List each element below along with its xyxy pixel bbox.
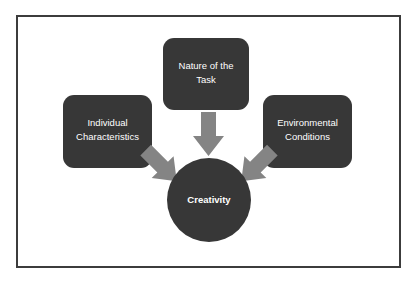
node-label-line-1: Nature of the [179, 60, 234, 71]
diagram-root: Nature of the Task Individual Characteri… [0, 0, 417, 284]
node-individual-characteristics[interactable]: Individual Characteristics [63, 95, 152, 168]
hub-label: Creativity [187, 194, 231, 205]
node-label-line-2: Characteristics [76, 131, 139, 142]
node-label-line-1: Environmental [277, 117, 338, 128]
node-nature-of-the-task[interactable]: Nature of the Task [163, 38, 249, 110]
diagram-canvas: Nature of the Task Individual Characteri… [0, 0, 417, 284]
node-label-line-2: Task [196, 74, 216, 85]
node-creativity[interactable]: Creativity [167, 158, 251, 242]
arrow-task-to-creativity-icon [193, 112, 224, 156]
node-label-line-2: Conditions [285, 131, 330, 142]
node-label-line-1: Individual [87, 117, 127, 128]
node-environmental-conditions[interactable]: Environmental Conditions [263, 95, 352, 168]
